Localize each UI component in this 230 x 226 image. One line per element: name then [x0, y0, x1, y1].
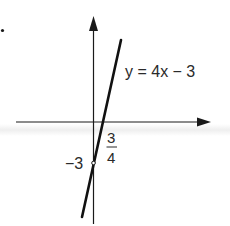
x-intercept-numerator: 3 [107, 129, 115, 146]
y-intercept-label: −3 [65, 155, 83, 172]
y-axis-arrow-icon [89, 16, 98, 31]
list-bullet-dot [1, 29, 4, 32]
equation-label: y = 4x − 3 [125, 63, 195, 80]
x-intercept-denominator: 4 [107, 149, 115, 166]
y-intercept-point [92, 161, 96, 165]
graph-figure: y = 4x − 3 3 4 −3 [0, 0, 230, 226]
x-axis-arrow-icon [197, 118, 211, 127]
coordinate-plane: y = 4x − 3 3 4 −3 [0, 0, 230, 226]
